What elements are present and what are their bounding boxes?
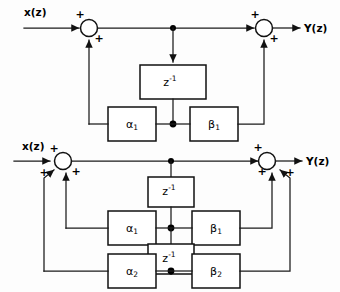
signal-flow-svg: x(z) + + z-1 α1 β1 [0,0,340,292]
wire-alpha2-to-adder-bottom [44,170,54,271]
input-label-bottom: x(z) [22,140,44,152]
sign-plus-input-top: + [75,8,84,21]
summing-node-input-bottom [55,153,72,170]
wire-beta2-to-adder-bottom [240,170,290,271]
sign-plus-beta2-bottom: + [285,166,294,179]
wire-beta1-to-adder-top [238,40,264,124]
input-label-top: x(z) [24,6,46,18]
sign-plus-alpha1-bottom: + [71,165,80,178]
output-label-top: Y(z) [303,22,327,34]
sign-plus-forward-top: + [250,8,259,21]
block-diagram-figure: x(z) + + z-1 α1 β1 [0,0,340,292]
output-label-bottom: Y(z) [305,155,329,167]
sign-plus-input-bottom: + [49,142,58,155]
sign-plus-alpha2-bottom: + [39,166,48,179]
sign-plus-feedback-top: + [94,32,103,45]
diagram-second-order: x(z) + + + z-1 α1 β1 [14,140,329,288]
summing-node-output-bottom [259,153,276,170]
summing-node-output-top [256,20,273,37]
sign-plus-forward-bottom: + [253,141,262,154]
wire-beta1-to-adder-bottom [240,173,272,228]
diagram-first-order: x(z) + + z-1 α1 β1 [24,6,327,141]
